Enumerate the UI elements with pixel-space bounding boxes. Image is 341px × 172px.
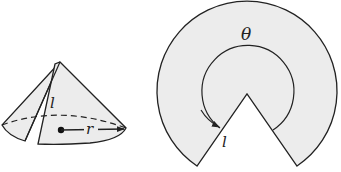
cone-figure: r l [2,62,126,144]
radius-label: r [86,120,94,138]
slant-label: l [50,94,55,112]
sector-radius-label: l [222,133,227,151]
angle-label: θ [241,24,251,44]
sector-figure: θ l [157,1,337,166]
diagram-canvas: r l θ l [0,0,341,172]
cone-diagram: r l θ l [0,0,341,172]
